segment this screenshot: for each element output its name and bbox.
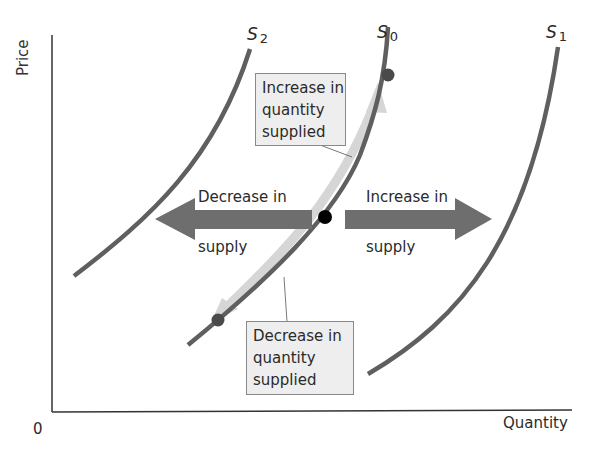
curve-label-s0: S0 [377, 22, 398, 44]
x-axis-label: Quantity [503, 414, 568, 432]
increase-qs-connector [320, 145, 352, 157]
origin-label: 0 [33, 420, 43, 438]
x-axis [52, 410, 572, 412]
equilibrium-point [318, 210, 332, 224]
increase-quantity-supplied-box: Increase in quantity supplied [255, 73, 346, 146]
decrease-qs-connector [284, 277, 287, 322]
curve-label-s1: S1 [546, 22, 567, 44]
upper-point [382, 69, 395, 82]
curve-label-s2: S2 [247, 24, 268, 46]
lower-point [212, 314, 225, 327]
increase-supply-label-top: Increase in [366, 188, 448, 206]
decrease-quantity-supplied-box: Decrease in quantity supplied [246, 321, 354, 395]
increase-supply-label-bottom: supply [366, 238, 415, 256]
y-axis-label: Price [14, 39, 32, 76]
decrease-supply-label-bottom: supply [198, 238, 247, 256]
decrease-supply-label-top: Decrease in [198, 188, 287, 206]
